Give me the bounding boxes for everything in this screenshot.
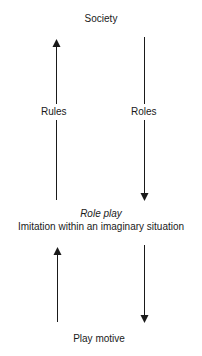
arrow-down-lower xyxy=(141,245,149,323)
role-play-subtitle: Imitation within an imaginary situation xyxy=(0,221,202,233)
play-motive-node: Play motive xyxy=(0,333,200,345)
society-node: Society xyxy=(0,13,202,25)
roles-label: Roles xyxy=(131,104,157,120)
rules-label: Rules xyxy=(41,104,67,120)
arrow-up-lower xyxy=(54,247,62,322)
role-play-title: Role play xyxy=(0,208,202,220)
arrows-layer xyxy=(0,0,202,356)
